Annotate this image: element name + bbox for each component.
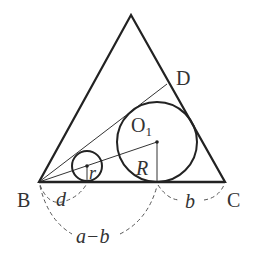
label-b: B [17,189,30,211]
label-r: r [89,163,97,183]
label-b-length: b [185,190,195,212]
label-o1-main: O [131,114,145,136]
label-c: C [227,189,240,211]
triangle-abc [39,15,225,182]
label-d: D [176,67,190,89]
label-o1: O1 [131,114,152,139]
center-o1-dot [155,140,159,144]
geometry-diagram: B C D O1 R r d b a−b [0,0,257,276]
label-d-length: d [56,188,67,210]
label-R: R [135,157,148,179]
label-a-minus-b: a−b [76,225,110,247]
label-o1-sub: 1 [145,124,152,139]
